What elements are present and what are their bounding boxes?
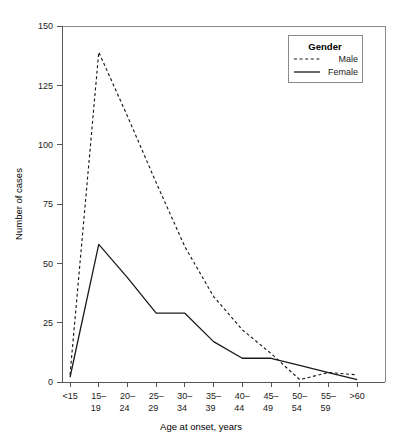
x-tick-label: >60 (350, 391, 365, 401)
x-tick-label: 15– (91, 391, 106, 401)
x-tick-label: 35– (206, 391, 221, 401)
x-tick-label-line2: 24 (119, 403, 129, 413)
x-tick-label-line2: 39 (206, 403, 216, 413)
series-line-female (70, 244, 357, 379)
x-tick-label: <15 (62, 391, 77, 401)
data-series-group (70, 52, 357, 380)
x-tick-label: 30– (177, 391, 192, 401)
x-tick-label: 45– (264, 391, 279, 401)
legend: Gender MaleFemale (289, 36, 363, 83)
legend-label-male: Male (338, 54, 358, 64)
legend-label-female: Female (328, 67, 358, 77)
x-tick-label: 25– (149, 391, 164, 401)
x-tick-label: 40– (235, 391, 250, 401)
x-ticks: <1515–1920–2425–2930–3435–3940–4445–4950… (62, 382, 364, 413)
x-tick-label-line2: 34 (177, 403, 187, 413)
y-tick-label: 125 (38, 81, 53, 91)
x-tick-label-line2: 29 (148, 403, 158, 413)
x-tick-label-line2: 19 (91, 403, 101, 413)
x-tick-label-line2: 54 (292, 403, 302, 413)
y-tick-label: 0 (48, 377, 53, 387)
y-axis: 0255075100125150 (38, 21, 62, 387)
legend-title: Gender (308, 41, 342, 52)
x-tick-label: 20– (120, 391, 135, 401)
y-tick-label: 50 (43, 259, 53, 269)
y-axis-title: Number of cases (13, 168, 24, 240)
series-line-male (70, 52, 357, 380)
x-axis-title: Age at onset, years (160, 421, 242, 432)
line-chart: 0255075100125150 <1515–1920–2425–2930–34… (0, 0, 402, 446)
x-tick-label-line2: 44 (234, 403, 244, 413)
x-tick-label: 55– (321, 391, 336, 401)
y-tick-label: 100 (38, 140, 53, 150)
y-tick-label: 150 (38, 21, 53, 31)
x-tick-label-line2: 49 (263, 403, 273, 413)
x-tick-label-line2: 59 (320, 403, 330, 413)
y-tick-label: 25 (43, 318, 53, 328)
y-tick-label: 75 (43, 199, 53, 209)
y-ticks: 0255075100125150 (38, 21, 62, 387)
x-tick-label: 50– (292, 391, 307, 401)
x-axis: <1515–1920–2425–2930–3435–3940–4445–4950… (62, 382, 385, 413)
chart-container: 0255075100125150 <1515–1920–2425–2930–34… (0, 0, 402, 446)
